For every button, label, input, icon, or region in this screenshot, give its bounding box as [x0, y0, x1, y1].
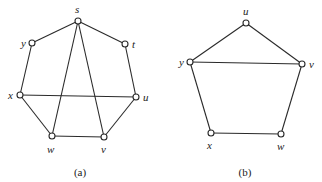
- edge-y-v: [190, 62, 302, 64]
- vertex-x: [208, 130, 214, 136]
- vertex-label-t: t: [132, 38, 136, 50]
- edge-w-v: [52, 136, 104, 137]
- caption-b: (b): [239, 166, 252, 179]
- edge-w-v: [281, 64, 302, 134]
- graph-a: sytxuwv(a): [7, 3, 149, 179]
- edge-y-x: [20, 43, 32, 95]
- graph-figure: sytxuwv(a)uyvxw(b): [0, 0, 322, 182]
- vertex-w: [278, 131, 284, 137]
- vertex-label-y: y: [20, 37, 26, 49]
- vertex-x: [17, 92, 23, 98]
- edge-y-x: [190, 62, 211, 133]
- vertex-label-v: v: [101, 143, 106, 155]
- vertex-u: [133, 94, 139, 100]
- edge-v-u: [104, 97, 136, 137]
- vertex-t: [122, 41, 128, 47]
- edge-u-v: [246, 23, 302, 64]
- vertex-y: [187, 59, 193, 65]
- edge-s-y: [32, 21, 78, 43]
- vertex-s: [75, 18, 81, 24]
- vertex-label-x: x: [206, 139, 212, 151]
- vertex-u: [243, 20, 249, 26]
- vertex-label-w: w: [47, 143, 55, 155]
- vertex-label-v: v: [309, 58, 314, 70]
- vertex-label-y: y: [178, 56, 184, 68]
- vertex-w: [49, 133, 55, 139]
- vertex-label-x: x: [7, 89, 13, 101]
- edge-s-t: [78, 21, 125, 44]
- edge-u-y: [190, 23, 246, 62]
- vertex-v: [299, 61, 305, 67]
- vertex-label-w: w: [277, 140, 285, 152]
- edge-s-w: [52, 21, 78, 136]
- vertex-label-s: s: [75, 3, 79, 15]
- caption-a: (a): [74, 166, 87, 179]
- vertex-v: [101, 134, 107, 140]
- edge-x-w: [20, 95, 52, 136]
- edge-s-v: [78, 21, 104, 137]
- edge-x-u: [20, 95, 136, 97]
- edge-x-w: [211, 133, 281, 134]
- graph-diagram: sytxuwv(a)uyvxw(b): [0, 0, 322, 182]
- edge-t-u: [125, 44, 136, 97]
- vertex-label-u: u: [143, 91, 149, 103]
- vertex-y: [29, 40, 35, 46]
- graph-b: uyvxw(b): [178, 5, 314, 179]
- vertex-label-u: u: [243, 5, 249, 17]
